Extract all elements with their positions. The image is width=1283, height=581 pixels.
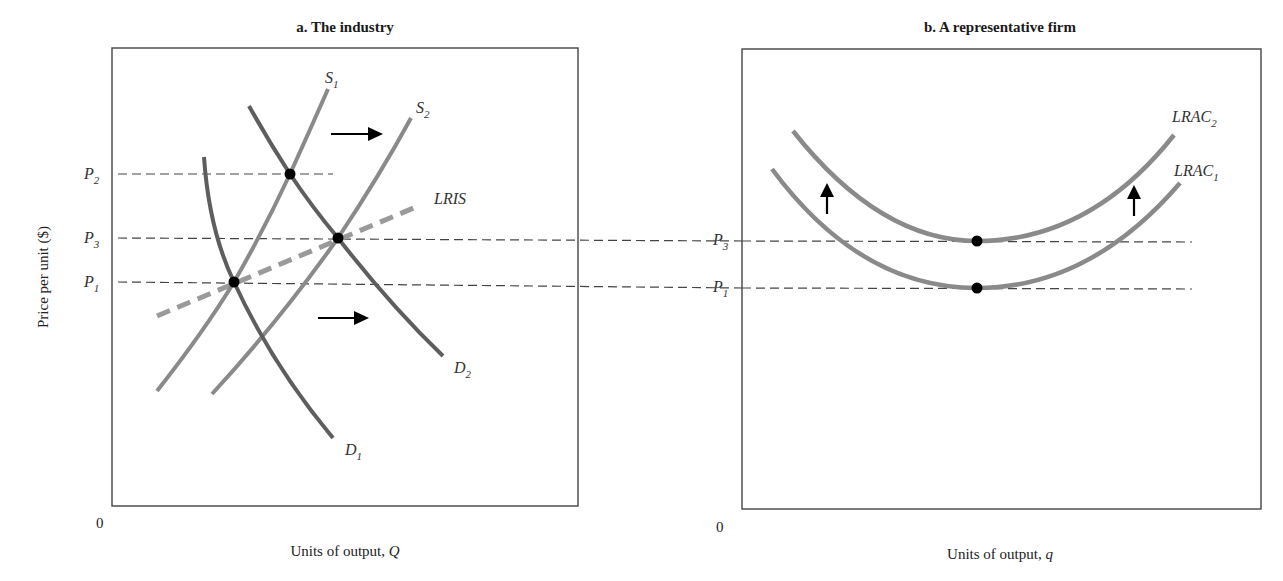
d1-label: D1 [344,441,362,462]
equilibrium-point-p1 [229,277,240,288]
panel-b-p3-label: P3 [712,231,729,252]
lrac2-curve [793,131,1174,241]
cost-shift-up-arrow-left-icon [820,183,834,214]
d2-label: D2 [453,359,472,380]
equilibrium-point-p2 [285,169,296,180]
figure: a. The industry Price per unit ($) 0 Uni… [0,0,1283,581]
p3-guide-line [118,238,742,241]
supply-shift-arrow-icon [331,127,383,141]
p1-label: P1 [83,273,99,294]
panel-b-origin: 0 [716,519,724,535]
panel-a-frame [112,48,578,506]
panel-b-p1-label: P1 [712,278,728,299]
lrac1-curve [772,169,1180,288]
lrac2-label: LRAC2 [1171,108,1217,129]
y-axis-label: Price per unit ($) [35,226,52,328]
equilibrium-point-p3 [333,233,344,244]
lrac2-minimum-point [972,236,983,247]
panel-a-origin: 0 [96,515,104,531]
panel-b-x-axis-label: Units of output, q [947,546,1053,562]
panel-a-x-axis-label: Units of output, Q [290,543,399,559]
panel-industry: a. The industry Price per unit ($) 0 Uni… [35,19,742,559]
lris-curve [157,207,416,316]
cost-shift-up-arrow-right-icon [1127,185,1141,216]
lrac1-label: LRAC1 [1173,162,1219,183]
s1-curve [157,89,328,391]
p2-label: P2 [83,165,100,186]
panel-b-title: b. A representative firm [924,19,1076,35]
p3-label: P3 [83,229,100,250]
p1-guide-line [118,282,742,288]
s2-label: S2 [416,99,430,120]
lris-label: LRIS [433,190,466,207]
panel-firm: b. A representative firm 0 Units of outp… [712,19,1261,562]
s2-curve [212,118,411,394]
s1-label: S1 [325,69,339,90]
lrac1-minimum-point [972,283,983,294]
demand-shift-arrow-icon [318,311,369,325]
panel-a-title: a. The industry [296,19,394,35]
